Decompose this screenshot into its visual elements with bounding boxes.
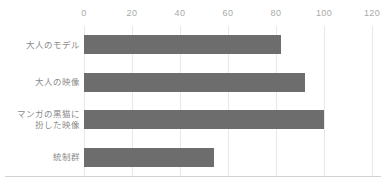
x-tick-label-2: 40 xyxy=(175,8,186,19)
bar-2 xyxy=(84,110,324,129)
category-label-2: マンガの黒猫に 扮した映像 xyxy=(2,109,80,130)
x-tick-label-5: 100 xyxy=(316,8,332,19)
bar-chart: 0 20 40 60 80 100 120 大人のモデル 大人の映像 マンガの黒… xyxy=(0,0,387,194)
x-tick-label-4: 80 xyxy=(271,8,282,19)
category-label-0: 大人のモデル xyxy=(2,40,80,51)
x-tick-label-0: 0 xyxy=(81,8,86,19)
category-label-3: 統制群 xyxy=(2,152,80,163)
bar-row xyxy=(84,26,372,64)
x-tick-label-6: 120 xyxy=(364,8,380,19)
bar-row xyxy=(84,139,372,177)
x-tick-label-3: 60 xyxy=(223,8,234,19)
bar-0 xyxy=(84,35,281,54)
category-label-1: 大人の映像 xyxy=(2,77,80,88)
bar-1 xyxy=(84,73,305,92)
axis-baseline xyxy=(5,176,381,177)
category-axis: 大人のモデル 大人の映像 マンガの黒猫に 扮した映像 統制群 xyxy=(0,26,80,176)
x-tick-label-1: 20 xyxy=(127,8,138,19)
plot-area xyxy=(84,26,372,176)
bar-3 xyxy=(84,148,214,167)
gridline-120 xyxy=(372,26,373,176)
bar-row xyxy=(84,101,372,139)
bar-row xyxy=(84,64,372,102)
